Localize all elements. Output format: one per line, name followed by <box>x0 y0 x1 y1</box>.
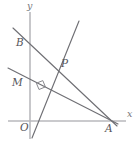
point-label-A: A <box>105 123 113 134</box>
y-axis-label: y <box>27 1 32 11</box>
geometry-figure: y x O A B M P <box>0 0 138 143</box>
point-label-M: M <box>12 77 23 88</box>
point-label-O: O <box>20 122 29 133</box>
point-label-P: P <box>61 58 68 69</box>
point-label-B: B <box>16 37 24 48</box>
line-segment-BA <box>13 28 117 126</box>
x-axis-label: x <box>127 109 132 119</box>
line-segment-MA <box>8 68 118 124</box>
